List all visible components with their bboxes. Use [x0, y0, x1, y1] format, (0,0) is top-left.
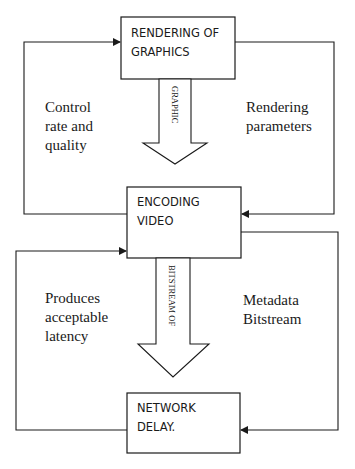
node-label-line-1: ENCODING: [137, 195, 200, 209]
edge-metadata-bitstream: Metadata Bitstream: [241, 232, 338, 430]
edge-label-line-2: Bitstream: [243, 311, 302, 327]
edge-label-line-1: Control: [45, 99, 91, 115]
edge-label-line-3: latency: [45, 328, 89, 344]
block-arrow-label: GRAPHIC: [170, 86, 180, 124]
edge-produces-acceptable-latency: Produces acceptable latency: [16, 251, 127, 430]
flow-diagram: RENDERING OF GRAPHICS ENCODING VIDEO NET…: [0, 0, 355, 469]
edge-label-line-1: Metadata: [243, 292, 299, 308]
node-label-line-1: RENDERING OF: [131, 26, 219, 40]
edge-control-rate-quality: Control rate and quality: [24, 42, 127, 214]
block-arrow-bitstream: BITSTREAM OF: [138, 258, 209, 377]
edge-label-line-1: Produces: [45, 290, 100, 306]
node-encoding-video: ENCODING VIDEO: [127, 187, 241, 258]
node-rendering-of-graphics: RENDERING OF GRAPHICS: [121, 17, 235, 79]
block-arrow-label: BITSTREAM OF: [167, 265, 177, 326]
edge-label-line-2: parameters: [246, 118, 312, 134]
edge-label-line-2: acceptable: [45, 309, 109, 325]
block-arrow-graphic: GRAPHIC: [143, 79, 207, 164]
node-label-line-2: DELAY.: [137, 420, 175, 434]
node-label-line-2: GRAPHICS: [131, 45, 190, 59]
edge-line: [241, 232, 338, 430]
edge-label-line-3: quality: [45, 137, 87, 153]
edge-label-line-1: Rendering: [246, 99, 309, 115]
node-label-line-2: VIDEO: [137, 214, 173, 228]
node-label-line-1: NETWORK: [137, 401, 196, 415]
edge-rendering-parameters: Rendering parameters: [235, 42, 334, 214]
edge-label-line-2: rate and: [45, 118, 93, 134]
node-network-delay: NETWORK DELAY.: [127, 393, 240, 453]
